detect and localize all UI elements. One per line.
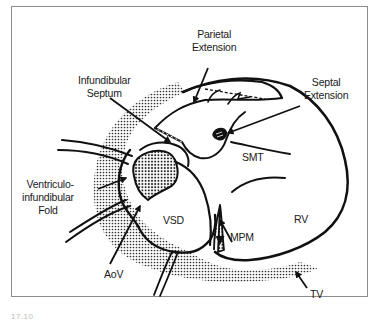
right-ventricle-outline <box>183 79 348 261</box>
parietal-inner-fold <box>208 90 250 104</box>
label-vif-line3: Fold <box>22 204 74 217</box>
label-septal-line1: Septal <box>304 76 348 89</box>
smt-curve <box>232 178 285 192</box>
label-mpm: MPM <box>230 231 254 244</box>
label-smt: SMT <box>242 151 264 164</box>
label-vsd: VSD <box>163 214 184 227</box>
label-rv: RV <box>294 213 308 226</box>
label-aov: AoV <box>104 268 123 281</box>
parietal-band-lower <box>155 98 282 128</box>
label-parietal-line1: Parietal <box>192 28 236 41</box>
label-vif-line2: infundibular <box>22 191 74 204</box>
septal-extension-blob <box>212 128 227 141</box>
parietal-band-upper <box>183 80 282 98</box>
label-tv: TV <box>310 288 323 301</box>
label-parietal-line2: Extension <box>192 41 236 54</box>
label-infundibular-line1: Infundibular <box>78 74 130 87</box>
label-septal-line2: Extension <box>304 89 348 102</box>
label-infundibular-line2: Septum <box>78 87 130 100</box>
septal-extension-arrow <box>228 106 300 133</box>
heart-anatomy-diagram <box>0 0 379 323</box>
label-ventriculo-infundibular-fold: Ventriculo- infundibular Fold <box>22 178 74 217</box>
figure-caption: 17.10 <box>11 312 34 321</box>
label-parietal-extension: Parietal Extension <box>192 28 236 54</box>
vsd-right-curve <box>176 162 211 245</box>
medial-papillary-muscle <box>214 205 224 252</box>
label-septal-extension: Septal Extension <box>304 76 348 102</box>
label-infundibular-septum: Infundibular Septum <box>78 74 130 100</box>
label-vif-line1: Ventriculo- <box>22 178 74 191</box>
aortic-valve-body <box>133 151 177 200</box>
